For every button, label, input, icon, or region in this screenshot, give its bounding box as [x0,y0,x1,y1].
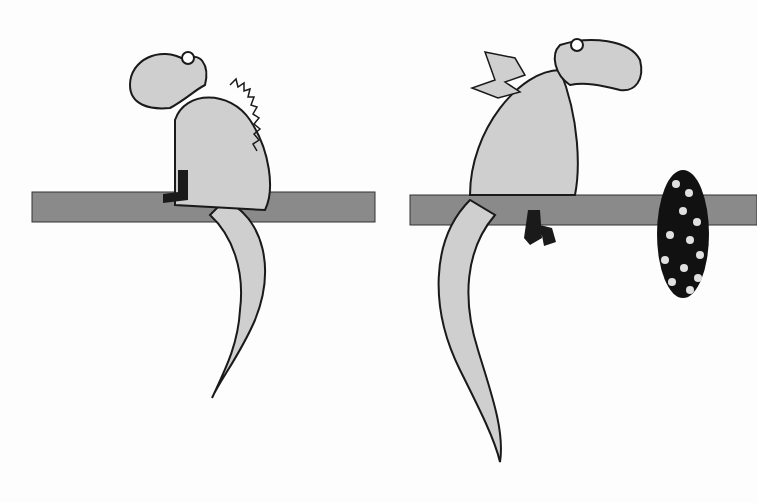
left-dragon-body [175,98,270,211]
right-dragon-eye [571,39,583,51]
right-dragon-tail [439,200,501,462]
illustration [0,0,757,503]
right-dragon-wings [472,52,525,98]
dragon-scene [0,0,757,503]
left-panel [32,52,375,398]
left-dragon-tail [210,200,265,398]
right-dragon-head [555,40,642,90]
left-dragon-eye [182,52,194,64]
right-panel [410,39,757,462]
